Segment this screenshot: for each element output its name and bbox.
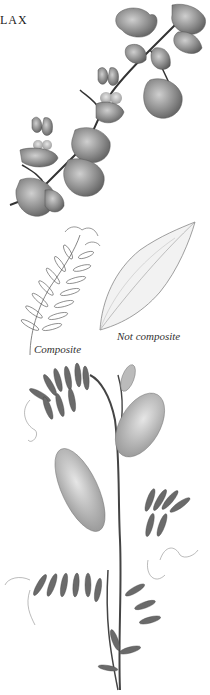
vetch-illustration xyxy=(5,363,198,690)
caption-not-composite: Not composite xyxy=(117,330,180,342)
composite-leaf-illustration xyxy=(20,227,100,355)
toadflax-illustration xyxy=(10,4,206,216)
simple-leaf-illustration xyxy=(100,222,195,330)
botanical-illustrations xyxy=(0,0,210,695)
caption-composite: Composite xyxy=(34,343,81,355)
